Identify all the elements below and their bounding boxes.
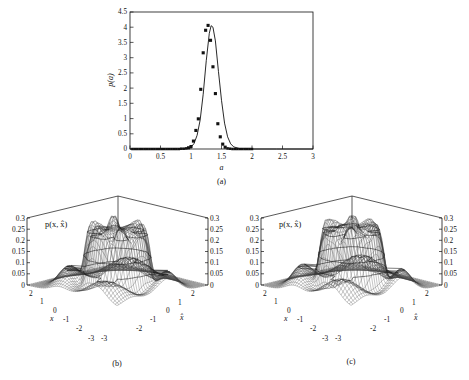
panel-c-ztick-right-0: 0.3 xyxy=(444,214,454,223)
panel-a-ytick-9: 4.5 xyxy=(118,8,127,16)
panel-a-data-point xyxy=(204,29,207,32)
panel-a-data-point xyxy=(146,148,149,151)
panel-a-data-point xyxy=(202,51,205,54)
panel-a-data-point xyxy=(160,148,163,151)
panel-b-xaxis-left: 2 1 0 -1 -2 -3 x xyxy=(29,289,94,343)
panel-c-ztick-left-6: 0 xyxy=(255,281,259,290)
panel-b-xtick-right-2: 0 xyxy=(166,306,170,315)
panel-c-ztick-right-6: 0 xyxy=(444,281,448,290)
panel-c-xtick-left-4: -2 xyxy=(310,324,316,333)
panel-a-data-point xyxy=(243,148,246,151)
panel-b-ztick-right-5: 0.05 xyxy=(210,269,223,278)
panel-b-ztick-left-1: 0.25 xyxy=(12,225,25,234)
panel-a-data-point xyxy=(199,88,202,91)
panel-c-xtick-left-1: 1 xyxy=(274,297,278,306)
panel-a-data-point xyxy=(131,148,134,151)
panel-a-data-point xyxy=(251,148,254,151)
panel-a-ytick-4: 2 xyxy=(123,85,127,93)
panel-c-ztick-left-0: 0.3 xyxy=(250,214,260,223)
panel-a-data-point xyxy=(185,147,188,150)
panel-a-data-point xyxy=(221,143,224,146)
panel-a-data-point xyxy=(139,148,142,151)
panel-a-caption: (a) xyxy=(217,177,226,186)
panel-c-xlabel-left: x xyxy=(283,314,288,323)
panel-c-ztick-right-3: 0.15 xyxy=(444,247,457,256)
figure-svg: 0 0.5 1 1.5 2 2.5 3 3.5 4 4.5 0 0.5 xyxy=(0,0,469,380)
panel-a-xtick-0: 0 xyxy=(128,153,132,161)
panel-a-data-point xyxy=(136,148,139,151)
panel-a-ytick-3: 1.5 xyxy=(118,100,127,108)
panel-a-data-point xyxy=(231,148,234,151)
panel-c-ztick-right-2: 0.2 xyxy=(444,236,454,245)
panel-b-surface xyxy=(27,216,208,306)
panel-a-xlabel: a xyxy=(220,163,224,172)
panel-a-yaxis: 0 0.5 1 1.5 2 2.5 3 3.5 4 4.5 xyxy=(118,8,133,153)
panel-a-data-point xyxy=(158,148,161,151)
panel-b-ztick-right-3: 0.15 xyxy=(210,247,223,256)
panel-a-ytick-2: 1 xyxy=(123,115,127,123)
panel-a-data-point xyxy=(234,148,237,151)
panel-b-xtick-right-5: -3 xyxy=(101,334,107,343)
panel-c-xtick-right-2: 0 xyxy=(400,306,404,315)
panel-a-ytick-1: 0.5 xyxy=(118,130,127,138)
panel-c-xaxis-left: 2 1 0 -1 -2 -3 x xyxy=(263,289,328,343)
panel-b-xtick-left-3: -1 xyxy=(63,315,69,324)
panel-b: 0.3 0.25 0.2 0.15 0.1 0.05 0 0.3 0.25 0 xyxy=(12,196,223,368)
panel-c-xtick-left-5: -3 xyxy=(322,334,328,343)
panel-b-ztick-left-3: 0.15 xyxy=(12,247,25,256)
panel-b-xtick-right-3: -1 xyxy=(150,315,156,324)
panel-a-data-point xyxy=(241,148,244,151)
panel-a-ytick-6: 3 xyxy=(123,54,127,62)
panel-b-ztick-right-4: 0.1 xyxy=(210,258,220,267)
panel-a-data-point xyxy=(209,39,212,42)
panel-c-ztick-right-1: 0.25 xyxy=(444,225,457,234)
panel-b-top-edge-right xyxy=(118,196,208,218)
panel-a-ylabel: p(a) xyxy=(106,73,115,88)
panel-a-data-point xyxy=(236,148,239,151)
panel-b-xtick-right-1: 1 xyxy=(178,298,182,307)
panel-b-ztick-right-0: 0.3 xyxy=(210,214,220,223)
panel-a-fitted-curve xyxy=(130,26,313,149)
panel-b-xlabel-left: x xyxy=(49,314,54,323)
panel-a-data-point xyxy=(219,135,222,138)
panel-c-xtick-right-3: -1 xyxy=(384,315,390,324)
panel-a-data-point xyxy=(178,148,181,151)
panel-c-xlabel-right: x̂ xyxy=(413,313,418,322)
panel-b-xtick-left-1: 1 xyxy=(40,297,44,306)
panel-c-ztick-left-5: 0.05 xyxy=(246,269,259,278)
panel-a-data-point xyxy=(173,148,176,151)
panel-a-data-point xyxy=(216,122,219,125)
panel-b-ztick-left-0: 0.3 xyxy=(16,214,26,223)
panel-a-data-point xyxy=(248,148,251,151)
panel-a-xtick-5: 2.5 xyxy=(278,153,287,161)
panel-b-xtick-left-5: -3 xyxy=(88,334,94,343)
panel-b-xtick-right-0: 2 xyxy=(191,289,195,298)
panel-a-xtick-6: 3 xyxy=(311,153,315,161)
panel-c: 0.3 0.25 0.2 0.15 0.1 0.05 0 0.3 0.25 0.… xyxy=(246,196,457,366)
panel-a-data-point xyxy=(226,147,229,150)
panel-c-xtick-right-4: -2 xyxy=(370,324,376,333)
panel-a: 0 0.5 1 1.5 2 2.5 3 3.5 4 4.5 0 0.5 xyxy=(106,8,315,186)
panel-a-data-point xyxy=(211,65,214,68)
panel-a-ytick-0: 0 xyxy=(123,145,127,153)
figure-root: 0 0.5 1 1.5 2 2.5 3 3.5 4 4.5 0 0.5 xyxy=(0,0,469,380)
panel-c-zlabel: p(x, x̂) xyxy=(279,220,302,229)
panel-a-ytick-5: 2.5 xyxy=(118,69,127,77)
panel-c-ztick-left-4: 0.1 xyxy=(250,258,260,267)
panel-b-ztick-left-6: 0 xyxy=(21,281,25,290)
panel-a-data-point xyxy=(156,148,159,151)
panel-c-top-edge-right xyxy=(352,196,442,218)
panel-a-data-point xyxy=(143,148,146,151)
panel-a-ytick-8: 4 xyxy=(123,24,127,32)
panel-a-xtick-2: 1 xyxy=(189,153,193,161)
panel-c-xtick-left-2: 0 xyxy=(287,306,291,315)
panel-c-xtick-left-3: -1 xyxy=(297,315,303,324)
panel-a-curve-group xyxy=(130,26,313,149)
panel-b-ztick-right-2: 0.2 xyxy=(210,236,220,245)
panel-b-ztick-left-5: 0.05 xyxy=(12,269,25,278)
panel-b-ztick-left-4: 0.1 xyxy=(16,258,26,267)
surface-mesh xyxy=(27,216,208,306)
panel-b-zlabel: p(x, x̂) xyxy=(45,220,68,229)
panel-a-data-point xyxy=(141,148,144,151)
panel-a-data-point xyxy=(189,145,192,148)
